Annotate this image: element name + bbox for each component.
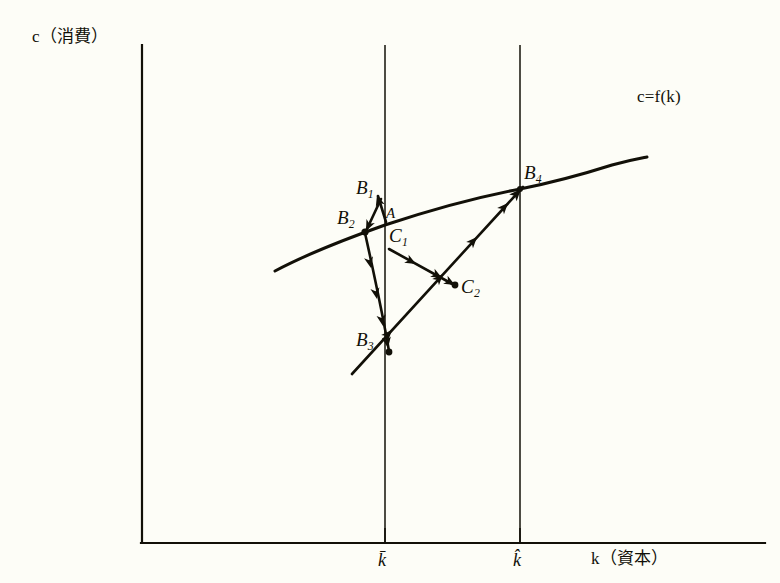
x-axis-label: k（資本） (591, 550, 668, 567)
tick-label-k-bar-text: k̄ (378, 550, 386, 570)
point-label-B2-text: B (337, 207, 349, 228)
point-label-B4-text: B (524, 162, 536, 183)
point-label-B1: B1 (356, 178, 374, 197)
point-label-A: A (386, 206, 395, 221)
point-label-B3-sub: 3 (368, 340, 374, 353)
vertical-reference-lines (385, 45, 520, 543)
x-axis-ticks (385, 528, 520, 543)
path-C1-to-C2-line (389, 249, 456, 286)
point-label-B4-sub: 4 (536, 173, 542, 186)
point-label-C2-text: C (461, 276, 474, 297)
node-B4 (517, 186, 523, 192)
point-label-B4: B4 (524, 163, 542, 182)
point-label-C1: C1 (389, 226, 408, 245)
node-C2 (452, 282, 459, 289)
point-label-C2-sub: 2 (474, 287, 480, 300)
y-axis-label-text: c（消費） (32, 27, 108, 46)
y-axis-label: c（消費） (32, 28, 108, 45)
point-label-B3-text: B (356, 329, 368, 350)
path-B3-to-B4-line (352, 187, 523, 374)
tick-label-k-hat-text: k̂ (513, 550, 521, 570)
point-label-C2: C2 (461, 277, 480, 296)
trajectory-B3-B4 (352, 186, 525, 374)
point-label-B3: B3 (356, 330, 374, 349)
curve-label: c=f(k) (637, 88, 681, 105)
point-label-C1-sub: 1 (402, 236, 408, 249)
arrowhead-c1c2-1 (404, 255, 418, 268)
point-label-C1-text: C (389, 225, 402, 246)
node-B3 (386, 349, 393, 356)
figure-canvas: c（消費） c=f(k) k（資本） k̄ k̂ B1 B2 A C1 C2 B… (0, 0, 780, 583)
tick-label-k-hat: k̂ (513, 551, 521, 569)
point-label-B1-text: B (356, 177, 368, 198)
axes-group (141, 45, 765, 543)
x-axis-label-text: k（資本） (591, 549, 668, 568)
point-label-B1-sub: 1 (368, 188, 374, 201)
node-B2 (361, 228, 368, 235)
point-label-B2-sub: 2 (349, 218, 355, 231)
point-label-A-text: A (386, 205, 395, 221)
trajectory-A-B1 (373, 194, 386, 222)
point-label-B2: B2 (337, 208, 355, 227)
tick-label-k-bar: k̄ (378, 551, 386, 569)
curve-label-text: c=f(k) (637, 87, 681, 106)
